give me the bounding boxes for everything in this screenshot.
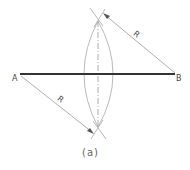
- point-a-label: A: [12, 74, 18, 83]
- point-b-label: B: [176, 74, 182, 83]
- bottom-cross-line-2: [91, 120, 103, 139]
- radius-line-upper: [105, 15, 175, 73]
- radius-label-lower: R: [56, 94, 66, 105]
- figure-caption: (a): [82, 147, 99, 158]
- perpendicular-bisector-diagram: A B R R (a): [0, 0, 190, 170]
- radius-line-lower: [21, 76, 92, 132]
